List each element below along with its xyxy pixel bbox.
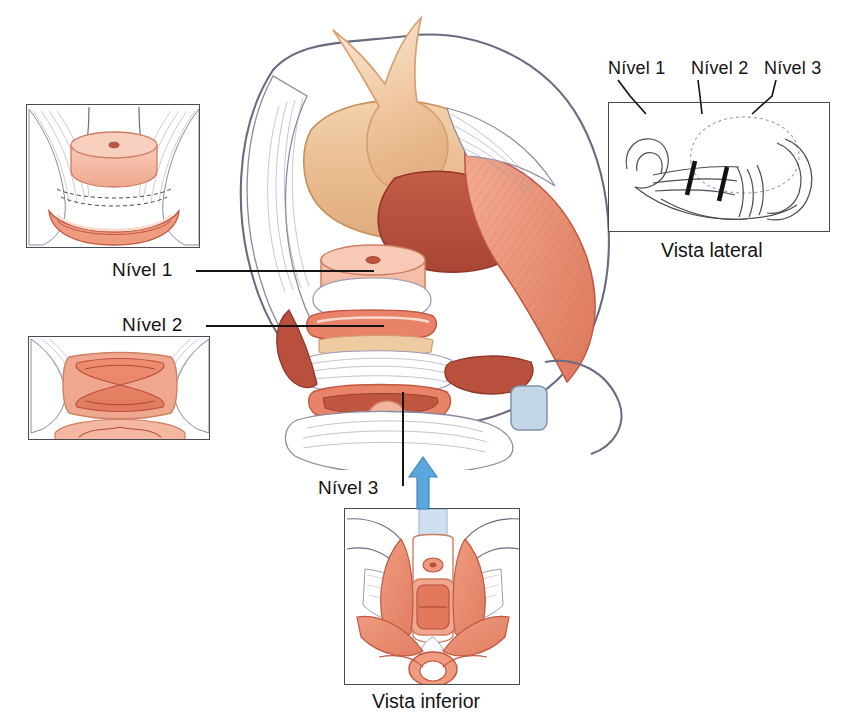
lateral-label-level-1: Nível 1: [608, 58, 665, 79]
inferior-vagina: [411, 579, 455, 635]
leader-line-level-1: [196, 270, 374, 272]
label-level-3: Nível 3: [318, 477, 379, 499]
inset2-vagina: [63, 353, 177, 420]
caption-vista-lateral: Vista lateral: [661, 239, 763, 262]
lateral-leader-lines: [600, 76, 830, 116]
lateral-label-level-2: Nível 2: [691, 58, 748, 79]
inset1-cervix: [71, 132, 157, 187]
arrow-up-icon: [409, 457, 437, 509]
inset-level-2: [28, 336, 210, 440]
lateral-label-level-3: Nível 3: [764, 58, 821, 79]
reference-arrow-up: [406, 455, 440, 511]
inset-inferior-drawing: [345, 509, 520, 685]
label-level-1: Nível 1: [112, 259, 173, 281]
caption-vista-inferior: Vista inferior: [372, 690, 480, 713]
inset-lateral-view: [608, 102, 830, 232]
figure-canvas: Nível 1 Nível 2 Nível 3 Vista lateral: [0, 0, 841, 728]
inset-inferior-view: [344, 508, 520, 685]
label-level-2: Nível 2: [122, 314, 183, 336]
inset-level-2-drawing: [29, 337, 210, 440]
inset-level-1: [26, 104, 200, 248]
leader-line-level-2: [206, 325, 384, 327]
inferior-urethra-lumen: [430, 563, 437, 568]
inset-level-1-drawing: [27, 105, 200, 248]
central-illustration: [215, 10, 625, 470]
perineal-membrane: [285, 411, 512, 470]
inset-lateral-drawing: [609, 103, 830, 232]
leader-line-level-3: [402, 392, 404, 486]
inferior-anus: [409, 652, 457, 685]
